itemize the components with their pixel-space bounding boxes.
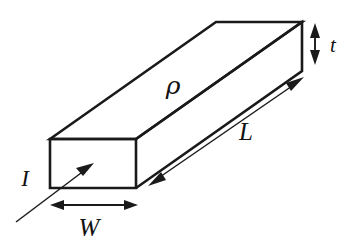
length-L-label: L xyxy=(238,118,253,145)
thickness-t-label: t xyxy=(330,33,337,57)
resistivity-rho-label: ρ xyxy=(165,71,181,100)
thickness-arrow-head-top xyxy=(310,23,320,38)
thickness-dimension-arrow xyxy=(310,23,320,65)
figure-container: ρ L W t I xyxy=(0,0,354,247)
bar-diagram-svg: ρ L W t I xyxy=(0,0,354,247)
width-W-label: W xyxy=(79,214,102,241)
width-dimension-arrow xyxy=(50,200,138,210)
width-arrow-head-start xyxy=(50,200,64,210)
width-arrow-head-end xyxy=(124,200,138,210)
thickness-arrow-head-bottom xyxy=(310,50,320,65)
current-I-label: I xyxy=(20,166,30,191)
